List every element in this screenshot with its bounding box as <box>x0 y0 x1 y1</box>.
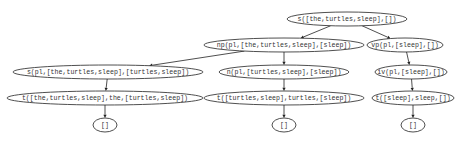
edge-n5-n8 <box>412 79 413 88</box>
node-label: n(pl,[turtles,sleep],[sleep]) <box>227 69 342 76</box>
node-label: t([turtles,sleep],turtles,[sleep]) <box>217 95 352 102</box>
nodes-layer: s([the,turtles,sleep],[])np(pl,[the,turt… <box>7 12 454 132</box>
tree-node: t([the,turtles,sleep],the,[turtles,sleep… <box>7 91 203 105</box>
arrowhead-icon <box>411 88 414 91</box>
arrowhead-icon <box>105 88 108 91</box>
arrowhead-icon <box>407 62 410 65</box>
edge-n3-n6 <box>106 79 107 88</box>
node-label: t([the,turtles,sleep],the,[turtles,sleep… <box>22 95 188 102</box>
tree-node: t([sleep],sleep,[]) <box>372 91 454 105</box>
tree-node: n(pl,[turtles,sleep],[sleep]) <box>219 65 349 79</box>
node-label: np(pl,[the,turtles,sleep],[sleep]) <box>217 42 352 49</box>
tree-node: iv(pl,[sleep],[]) <box>375 65 447 79</box>
tree-node: np(pl,[the,turtles,sleep],[sleep]) <box>204 38 364 52</box>
tree-node: s([the,turtles,sleep],[]) <box>287 12 407 26</box>
tree-node: [] <box>401 118 425 132</box>
node-label: s(pl,[the,turtles,sleep],[turtles,sleep]… <box>27 69 189 76</box>
arrowhead-icon <box>411 115 414 118</box>
node-label: t([sleep],sleep,[]) <box>375 95 450 102</box>
node-label: [] <box>280 122 288 129</box>
tree-node: [] <box>272 118 296 132</box>
tree-node: vp(pl,[sleep],[]) <box>367 38 443 52</box>
arrowhead-icon <box>282 88 285 91</box>
node-label: [] <box>101 122 109 129</box>
parse-tree-diagram: s([the,turtles,sleep],[])np(pl,[the,turt… <box>0 0 470 147</box>
arrowhead-icon <box>282 115 285 118</box>
arrowhead-icon <box>282 62 285 65</box>
edge-n2-n5 <box>407 52 409 62</box>
edge-n0-n2 <box>362 26 388 37</box>
arrowhead-icon <box>103 115 106 118</box>
edge-n1-n3 <box>152 51 244 65</box>
tree-node: s(pl,[the,turtles,sleep],[turtles,sleep]… <box>13 65 203 79</box>
tree-node: t([turtles,sleep],turtles,[sleep]) <box>204 91 364 105</box>
edge-n0-n1 <box>304 26 331 37</box>
node-label: [] <box>409 122 417 129</box>
node-label: vp(pl,[sleep],[]) <box>371 42 438 49</box>
node-label: iv(pl,[sleep],[]) <box>377 69 444 76</box>
node-label: s([the,turtles,sleep],[]) <box>298 16 397 23</box>
tree-node: [] <box>93 118 117 132</box>
